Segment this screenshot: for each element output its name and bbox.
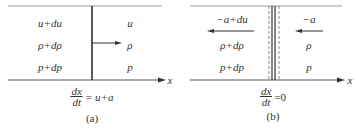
equation-a-den: dt xyxy=(72,97,81,107)
x-axis-arrowhead-b xyxy=(337,78,345,83)
label-b-left-pressure: p+dp xyxy=(220,62,244,73)
x-axis-arrowhead-a xyxy=(158,78,166,83)
equation-a-rhs: = u+a xyxy=(85,91,114,103)
flow-arrowhead-right-b xyxy=(295,29,302,33)
label-a-right-pressure: p xyxy=(127,62,133,73)
label-a-left-velocity: u+du xyxy=(38,18,62,29)
axis-label-b: x xyxy=(348,75,353,86)
velocity-arrowhead-a xyxy=(115,41,122,45)
label-a-left-pressure: p+dp xyxy=(38,62,62,73)
label-b-right-velocity: −a xyxy=(303,14,316,25)
equation-b: dxdt =0 xyxy=(260,86,286,107)
equation-b-den: dt xyxy=(262,97,271,107)
equation-b-rhs: =0 xyxy=(274,91,286,103)
label-b-right-pressure: p xyxy=(306,62,312,73)
flow-arrowhead-left-b xyxy=(207,29,214,33)
label-b-right-density: ρ xyxy=(306,40,311,51)
label-a-left-density: ρ+dρ xyxy=(38,40,61,51)
axis-label-a: x xyxy=(168,75,173,86)
label-a-right-velocity: u xyxy=(127,18,133,29)
label-b-left-density: ρ+dρ xyxy=(220,40,243,51)
caption-a: (a) xyxy=(86,112,98,124)
label-b-left-velocity: −a+du xyxy=(216,14,247,25)
equation-a: dxdt = u+a xyxy=(71,86,114,107)
caption-b: (b) xyxy=(267,110,280,122)
label-a-right-density: ρ xyxy=(127,40,132,51)
